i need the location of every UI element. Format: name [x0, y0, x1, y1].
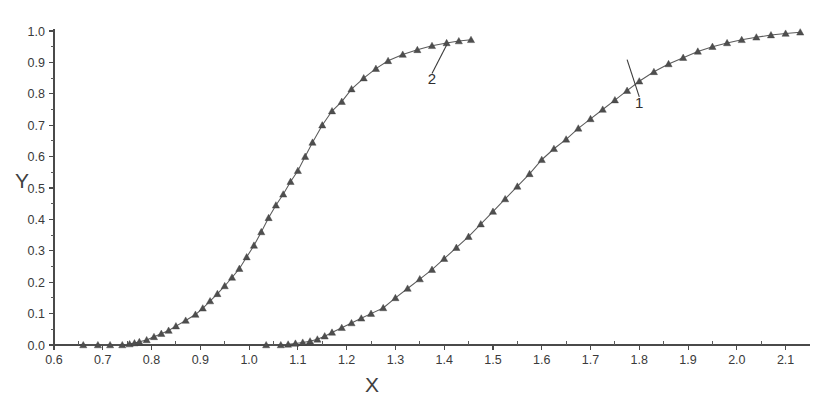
data-point-marker: [611, 96, 618, 102]
data-point-marker: [575, 125, 582, 131]
data-point-marker: [665, 60, 672, 66]
data-point-marker: [287, 178, 294, 184]
data-point-marker: [250, 242, 257, 248]
data-point-marker: [302, 153, 309, 159]
x-axis-tick-label: 0.8: [143, 353, 160, 367]
y-axis-tick-label: 0.5: [28, 182, 45, 196]
data-point-marker: [321, 333, 328, 339]
data-point-marker: [243, 253, 250, 259]
data-point-marker: [599, 106, 606, 112]
data-point-marker: [797, 29, 804, 35]
data-point-marker: [272, 202, 279, 208]
y-axis: 0.00.10.20.30.40.50.60.70.80.91.0: [28, 25, 54, 353]
x-axis-tick-label: 1.5: [484, 353, 501, 367]
data-point-marker: [623, 87, 630, 93]
x-axis-tick-label: 1.2: [338, 353, 355, 367]
x-axis-tick-label: 1.3: [387, 353, 404, 367]
x-axis-tick-label: 1.8: [631, 353, 648, 367]
annotation-label-2: 2: [428, 70, 436, 87]
y-axis-tick-label: 0.8: [28, 87, 45, 101]
data-point-marker: [143, 336, 150, 342]
data-point-marker: [404, 285, 411, 291]
data-point-marker: [367, 310, 374, 316]
y-axis-tick-label: 0.1: [28, 307, 45, 321]
y-axis-tick-label: 0.9: [28, 56, 45, 70]
data-point-marker: [182, 317, 189, 323]
data-point-marker: [587, 115, 594, 121]
data-point-marker: [650, 68, 657, 74]
data-point-marker: [150, 333, 157, 339]
data-point-marker: [319, 122, 326, 128]
series-line-2: [83, 40, 471, 345]
line-chart-svg: 0.00.10.20.30.40.50.60.70.80.91.0 0.60.7…: [0, 0, 828, 405]
data-point-marker: [467, 36, 474, 42]
data-point-marker: [294, 167, 301, 173]
data-point-marker: [338, 324, 345, 330]
data-series-group: [80, 29, 804, 348]
series-line-1: [266, 32, 800, 345]
data-point-marker: [158, 330, 165, 336]
data-point-marker: [314, 336, 321, 342]
data-point-marker: [236, 265, 243, 271]
data-point-marker: [328, 329, 335, 335]
x-axis-tick-label: 1.1: [289, 353, 306, 367]
y-axis-tick-label: 0.0: [28, 339, 45, 353]
y-axis-tick-label: 0.3: [28, 244, 45, 258]
data-point-marker: [348, 319, 355, 325]
y-axis-tick-label: 0.7: [28, 119, 45, 133]
data-point-marker: [265, 214, 272, 220]
data-point-marker: [680, 54, 687, 60]
data-point-marker: [416, 275, 423, 281]
series-2: [80, 36, 475, 348]
chart-container: 0.00.10.20.30.40.50.60.70.80.91.0 0.60.7…: [0, 0, 828, 405]
series-annotations: 21: [428, 45, 644, 111]
y-axis-tick-label: 0.2: [28, 276, 45, 290]
annotation-label-1: 1: [635, 94, 643, 111]
x-axis-tick-label: 1.0: [240, 353, 257, 367]
y-axis-tick-label: 0.6: [28, 150, 45, 164]
y-axis-title: Y: [15, 169, 29, 192]
x-axis-tick-label: 1.4: [435, 353, 452, 367]
data-point-marker: [385, 57, 392, 63]
x-axis-tick-label: 1.7: [582, 353, 599, 367]
data-point-marker: [550, 145, 557, 151]
annotation-leader-line-2: [432, 45, 447, 73]
data-point-marker: [360, 75, 367, 81]
x-axis-tick-label: 0.7: [94, 353, 111, 367]
data-point-marker: [165, 327, 172, 333]
y-axis-tick-label: 1.0: [28, 25, 45, 39]
x-axis-tick-label: 0.9: [192, 353, 209, 367]
data-point-marker: [636, 78, 643, 84]
x-axis-tick-label: 0.6: [45, 353, 62, 367]
x-axis-tick-label: 1.9: [679, 353, 696, 367]
data-point-marker: [392, 294, 399, 300]
y-axis-tick-label: 0.4: [28, 213, 45, 227]
data-point-marker: [358, 315, 365, 321]
x-axis-tick-label: 2.0: [728, 353, 745, 367]
data-point-marker: [258, 228, 265, 234]
x-axis-tick-label: 1.6: [533, 353, 550, 367]
series-1: [263, 29, 804, 348]
data-point-marker: [172, 323, 179, 329]
x-axis-tick-label: 2.1: [777, 353, 794, 367]
x-axis-title: X: [365, 373, 379, 396]
data-point-marker: [309, 139, 316, 145]
data-point-marker: [280, 191, 287, 197]
data-point-marker: [372, 65, 379, 71]
x-axis: 0.60.70.80.91.01.11.21.31.41.51.61.71.81…: [45, 341, 810, 367]
